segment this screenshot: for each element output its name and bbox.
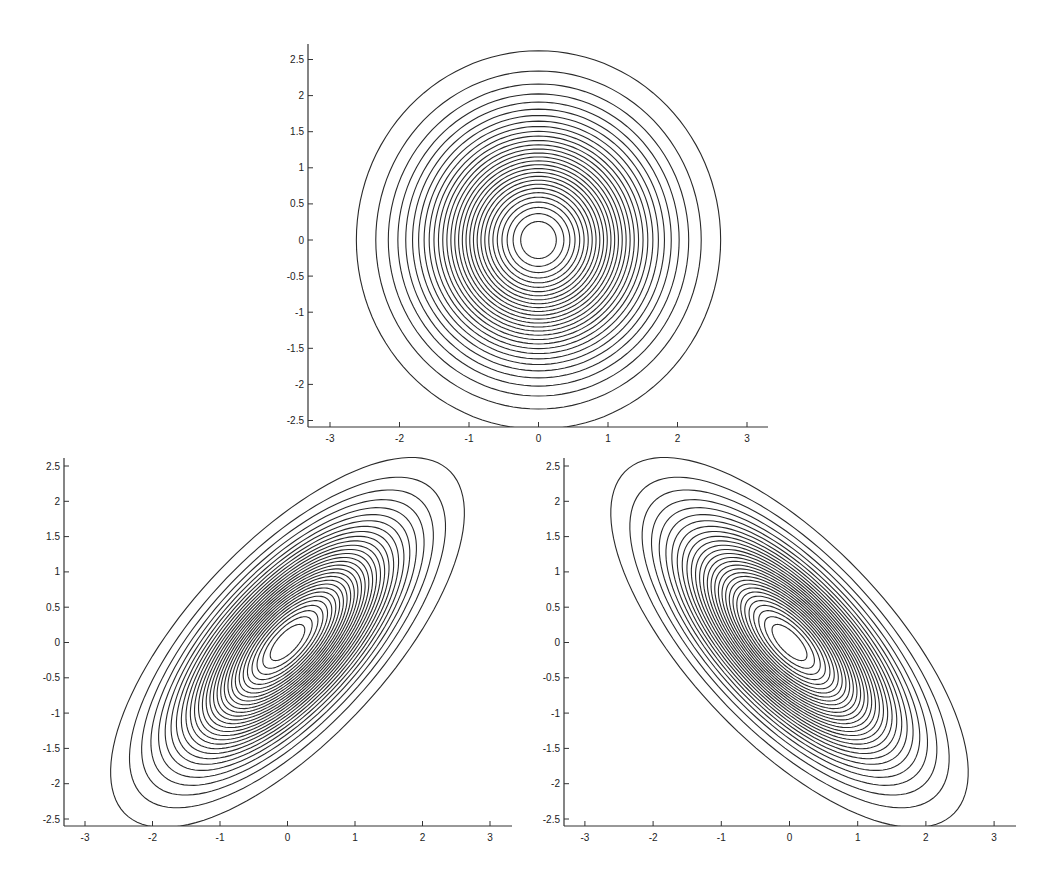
contour-line (745, 596, 834, 689)
axes: -3-2-101232.521.510.50-0.5-1-1.5-2-2.5 (43, 458, 512, 843)
contour-line (111, 458, 465, 828)
contour-line (356, 51, 720, 429)
contour-line (630, 477, 949, 808)
y-tick-label: 1.5 (290, 126, 304, 137)
y-tick-label: 2.5 (546, 461, 560, 472)
x-tick-label: 0 (285, 832, 291, 843)
y-tick-label: 2 (298, 90, 304, 101)
x-tick-label: -1 (717, 832, 726, 843)
contour-line (443, 141, 635, 340)
contour-line (186, 536, 389, 748)
y-tick-label: 2.5 (290, 54, 304, 65)
y-tick-label: 0 (554, 637, 560, 648)
y-tick-label: -1.5 (543, 743, 561, 754)
y-tick-label: -1.5 (43, 743, 61, 754)
contour-line (741, 592, 839, 693)
contour-line (687, 536, 892, 748)
y-tick-label: 2 (54, 496, 60, 507)
contour-line (489, 188, 588, 291)
contour-line (202, 554, 372, 732)
contour-line (611, 458, 968, 828)
y-tick-label: 0.5 (46, 602, 60, 613)
contour-lines (111, 458, 465, 828)
x-tick-label: 1 (855, 832, 861, 843)
contour-line (159, 508, 417, 778)
y-tick-label: -0.5 (43, 672, 61, 683)
contour-line (459, 157, 619, 323)
y-tick-label: 0 (54, 637, 60, 648)
contour-line (239, 592, 336, 693)
contour-line (737, 588, 842, 697)
contour-line (477, 176, 600, 303)
y-tick-label: 1 (54, 566, 60, 577)
contour-line (210, 561, 365, 723)
x-tick-label: 2 (675, 433, 681, 444)
contour-line (406, 102, 672, 378)
contour-line (677, 526, 901, 758)
contour-line (181, 531, 393, 753)
x-tick-label: -3 (81, 832, 90, 843)
contour-line (199, 549, 377, 735)
contour-line (659, 508, 920, 778)
contour-line (711, 561, 868, 723)
x-tick-label: 2 (420, 832, 426, 843)
contour-line (217, 569, 358, 716)
y-tick-label: -2.5 (287, 415, 305, 426)
x-tick-label: -1 (216, 832, 225, 843)
contour-line (176, 526, 398, 758)
x-tick-label: -2 (395, 433, 404, 444)
contour-line (228, 580, 347, 705)
y-tick-label: -2 (551, 778, 560, 789)
x-tick-label: 3 (991, 832, 997, 843)
x-tick-label: -1 (465, 433, 474, 444)
x-tick-label: 3 (487, 832, 493, 843)
contour-line (206, 557, 369, 727)
contour-line (235, 588, 339, 697)
contour-line (707, 557, 871, 727)
contour-line (447, 145, 630, 335)
y-tick-label: 1 (298, 162, 304, 173)
contour-line (521, 222, 557, 259)
y-tick-label: -1.5 (287, 343, 305, 354)
y-tick-label: -2.5 (543, 814, 561, 825)
contour-lines (611, 458, 968, 828)
contour-line (398, 94, 679, 386)
contour-line (485, 184, 592, 296)
y-tick-label: 1.5 (546, 531, 560, 542)
contour-line (497, 197, 579, 283)
x-tick-label: 3 (744, 433, 750, 444)
contour-line (243, 596, 332, 689)
contour-line (470, 169, 608, 312)
x-tick-label: -2 (649, 832, 658, 843)
x-tick-label: 1 (605, 433, 611, 444)
contour-line (130, 477, 446, 808)
y-tick-label: -0.5 (287, 271, 305, 282)
y-tick-label: 1.5 (46, 531, 60, 542)
x-tick-label: 0 (536, 433, 542, 444)
x-tick-label: -3 (326, 433, 335, 444)
contour-line (171, 521, 404, 765)
contour-line (672, 521, 907, 765)
contour-line (493, 193, 584, 288)
x-tick-label: 1 (352, 832, 358, 843)
axes: -3-2-101232.521.510.50-0.5-1-1.5-2-2.5 (543, 458, 1016, 843)
contour-line (466, 165, 611, 316)
y-tick-label: -2.5 (43, 814, 61, 825)
y-tick-label: -2 (295, 379, 304, 390)
contour-line (700, 549, 880, 735)
x-tick-label: 0 (787, 832, 793, 843)
y-tick-label: 2 (554, 496, 560, 507)
contour-line (718, 569, 860, 716)
contour-line (221, 573, 355, 713)
contour-plot-isotropic: -3-2-101232.521.510.50-0.5-1-1.5-2-2.5 (287, 44, 768, 444)
y-tick-label: -2 (51, 778, 60, 789)
contour-line (704, 554, 876, 732)
axes: -3-2-101232.521.510.50-0.5-1-1.5-2-2.5 (287, 44, 768, 444)
contour-line (722, 573, 857, 713)
y-tick-label: -1 (295, 307, 304, 318)
y-tick-label: 0.5 (546, 602, 560, 613)
contour-line (455, 153, 622, 327)
contour-plot-positive-correlation: -3-2-101232.521.510.50-0.5-1-1.5-2-2.5 (43, 458, 512, 843)
y-tick-label: 2.5 (46, 461, 60, 472)
contour-line (682, 531, 896, 753)
